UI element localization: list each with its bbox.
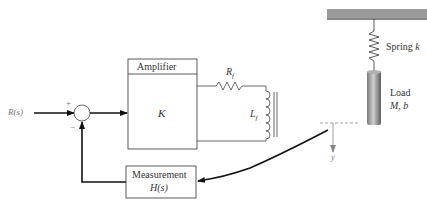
amplifier-block: [128, 59, 197, 149]
measurement-title: Measurement: [132, 170, 186, 180]
block-diagram: [0, 0, 427, 209]
ceiling: [327, 9, 427, 19]
amplifier-title: Amplifier: [137, 62, 176, 72]
summing-junction: [74, 105, 90, 121]
output-y-label: y: [331, 154, 335, 162]
load-label: Load: [390, 88, 411, 98]
measurement-tf: H(s): [150, 183, 168, 193]
inductor-label: Lf: [250, 109, 258, 122]
diagram-canvas: R(s) + − Amplifier K Rf Lf Measurement H…: [0, 0, 427, 209]
spring-label: Spring k: [386, 42, 420, 52]
minus-sign: −: [70, 123, 75, 132]
load-cylinder: [367, 70, 381, 125]
amplifier-gain: K: [158, 108, 165, 119]
load-params: M, b: [390, 101, 408, 111]
field-circuit: [197, 82, 277, 141]
feedback-path: [82, 122, 126, 182]
input-label: R(s): [8, 108, 23, 117]
output-reference: [320, 123, 360, 152]
plus-sign: +: [66, 99, 71, 108]
resistor-label: Rf: [226, 67, 234, 80]
sensor-feedback-curve: [198, 130, 328, 181]
spring: [369, 19, 379, 71]
